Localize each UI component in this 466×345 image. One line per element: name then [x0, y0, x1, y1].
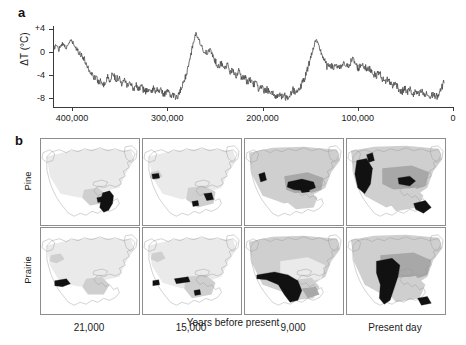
north-america-map — [41, 228, 139, 314]
y-tick-mark — [49, 52, 53, 53]
map-prairie-9-000 — [244, 227, 344, 315]
map-pine-9-000 — [244, 138, 344, 226]
panel-letter-b: b — [15, 134, 23, 147]
north-america-map — [143, 228, 241, 314]
north-america-map — [347, 139, 445, 225]
north-america-map — [245, 228, 343, 314]
x-axis-line — [53, 107, 453, 108]
north-america-map — [245, 139, 343, 225]
map-pine-15-000 — [142, 138, 242, 226]
species-range-area — [97, 197, 103, 203]
north-america-map — [347, 228, 445, 314]
map-prairie-15-000 — [142, 227, 242, 315]
x-tick-label: 300,000 — [151, 113, 184, 123]
north-america-map — [143, 139, 241, 225]
species-range-area — [192, 201, 199, 207]
panel-b-x-axis-label: Years before present — [0, 317, 466, 328]
y-tick-label: +4 — [0, 24, 45, 33]
map-pine-present-day — [346, 138, 446, 226]
x-tick-label: 200,000 — [246, 113, 279, 123]
species-range-area — [194, 290, 201, 296]
species-range-area — [300, 187, 310, 193]
species-range-area — [153, 280, 160, 286]
y-tick-mark — [49, 75, 53, 76]
y-tick-label: -8 — [0, 94, 45, 103]
row-label-prairie: Prairie — [23, 227, 33, 313]
map-pine-21-000 — [40, 138, 140, 226]
species-range-area — [152, 173, 160, 179]
north-america-map — [41, 139, 139, 225]
x-tick-label: 400,000 — [56, 113, 89, 123]
map-prairie-present-day — [346, 227, 446, 315]
figure-root: a ΔT (°C) +40-4-8 400,000300,000200,0001… — [0, 0, 466, 345]
row-label-pine: Pine — [23, 138, 33, 224]
land-shading — [286, 192, 317, 210]
y-tick-mark — [49, 29, 53, 30]
x-tick-mark — [358, 107, 359, 111]
panel-b-distribution-maps: b PinePrairie 21,00015,0009,000Present d… — [0, 132, 466, 345]
map-prairie-21-000 — [40, 227, 140, 315]
x-tick-mark — [453, 107, 454, 111]
x-tick-label: 0 — [450, 113, 455, 123]
y-tick-label: -4 — [0, 71, 45, 80]
panel-a-temperature-timeseries: a ΔT (°C) +40-4-8 400,000300,000200,0001… — [0, 0, 466, 132]
x-tick-mark — [263, 107, 264, 111]
x-tick-mark — [72, 107, 73, 111]
y-tick-label: 0 — [0, 48, 45, 57]
x-tick-mark — [167, 107, 168, 111]
temperature-anomaly-curve — [53, 26, 453, 107]
x-tick-label: 100,000 — [341, 113, 374, 123]
y-tick-mark — [49, 98, 53, 99]
